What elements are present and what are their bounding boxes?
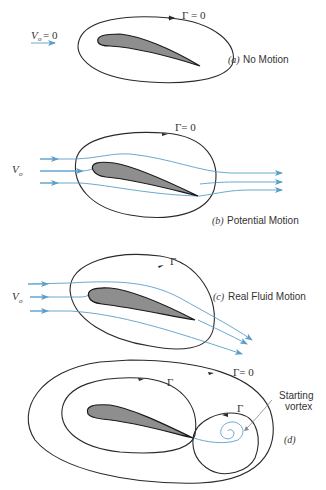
svg-text:No Motion: No Motion: [243, 54, 289, 65]
svg-text:o: o: [19, 170, 23, 178]
svg-text:(c): (c): [213, 291, 225, 303]
vortex-contour-d: [193, 413, 258, 473]
inner-circulation-label-d: Γ: [167, 376, 173, 388]
svg-text:= 0: = 0: [43, 29, 58, 41]
starting-vortex-label-line1: Starting: [279, 390, 313, 401]
airfoil-a: [98, 34, 200, 66]
caption-c: (c) Real Fluid Motion: [213, 291, 306, 303]
airfoil-b: [92, 162, 198, 196]
airfoil-circulation-diagram: Γ = 0 V o = 0 (a) No Motion Γ= 0 V o (b)…: [0, 0, 326, 490]
svg-text:(b): (b): [212, 215, 224, 227]
outer-circulation-label-d: Γ= 0: [233, 366, 254, 378]
starting-vortex-label-line2: vortex: [285, 401, 312, 412]
velocity-label-a: V o = 0: [31, 29, 58, 43]
velocity-label-b: V o: [12, 163, 23, 178]
caption-d: (d): [284, 434, 296, 446]
svg-text:o: o: [38, 35, 42, 43]
contour-direction-arrow-icon: [208, 372, 214, 375]
contour-direction-arrow-icon: [169, 16, 175, 21]
svg-text:(a): (a): [228, 54, 240, 66]
panel-c: Γ V o (c) Real Fluid Motion: [12, 254, 306, 354]
streamline-c-3: [30, 311, 242, 354]
panel-b: Γ= 0 V o (b) Potential Motion: [12, 121, 299, 227]
circulation-label-c: Γ: [170, 255, 176, 267]
panel-d: Γ= 0 Γ Γ Starting vortex (d): [28, 360, 313, 483]
caption-b: (b) Potential Motion: [212, 215, 299, 227]
circulation-label-a: Γ = 0: [182, 9, 206, 21]
svg-text:Real Fluid Motion: Real Fluid Motion: [228, 291, 306, 302]
svg-text:o: o: [19, 297, 23, 305]
caption-a: (a) No Motion: [228, 54, 289, 66]
velocity-label-c: V o: [12, 290, 23, 305]
svg-text:Potential Motion: Potential Motion: [227, 215, 299, 226]
annotation-leader-line: [246, 400, 272, 429]
panel-a: Γ = 0 V o = 0 (a) No Motion: [31, 9, 289, 83]
contour-direction-arrow-icon: [158, 265, 164, 268]
starting-vortex-spiral: [194, 422, 243, 443]
airfoil-d: [87, 405, 193, 438]
circulation-label-b: Γ= 0: [175, 121, 196, 133]
vortex-circulation-label-d: Γ: [237, 402, 243, 414]
